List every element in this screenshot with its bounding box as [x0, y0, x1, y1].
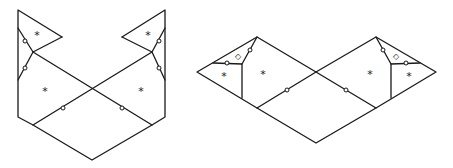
circle-marker: [120, 106, 124, 110]
star-label: *: [34, 29, 40, 42]
right-figure: * * * * ◇ ◇: [197, 37, 436, 143]
right-outline: [197, 37, 436, 143]
circle-marker: [23, 66, 27, 70]
right-inner-v: [257, 72, 376, 108]
diamond-label: ◇: [235, 52, 242, 61]
circle-marker: [225, 61, 229, 65]
right-right-wing-edges: [376, 37, 391, 98]
diamond-label: ◇: [393, 52, 400, 61]
star-label: *: [260, 68, 266, 81]
circle-marker: [381, 48, 385, 52]
diagram-canvas: * * * * * * * * ◇ ◇: [0, 0, 453, 168]
star-label: *: [138, 85, 144, 98]
circle-marker: [23, 39, 27, 43]
star-label: *: [145, 29, 151, 42]
circle-marker: [157, 66, 161, 70]
circle-marker: [344, 88, 348, 92]
circle-marker: [61, 106, 65, 110]
star-label: *: [221, 70, 227, 83]
star-label: *: [367, 68, 373, 81]
right-left-wing-edges: [242, 37, 257, 98]
circle-marker: [404, 61, 408, 65]
left-figure: * * * *: [18, 10, 165, 160]
circle-marker: [248, 48, 252, 52]
circle-marker: [285, 88, 289, 92]
star-label: *: [42, 85, 48, 98]
circle-marker: [157, 39, 161, 43]
star-label: *: [406, 70, 412, 83]
left-fork-right: [152, 28, 165, 80]
left-fork-left: [18, 28, 33, 80]
